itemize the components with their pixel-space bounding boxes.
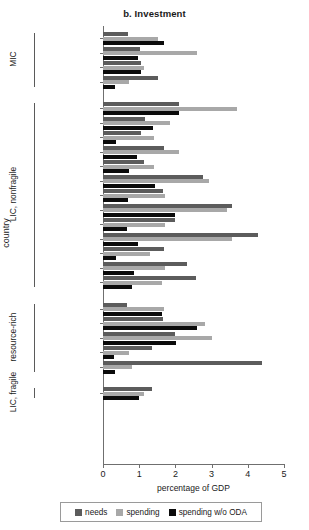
bar-needs: [103, 204, 232, 208]
bar-needs: [103, 247, 164, 251]
category-tick: [100, 367, 103, 368]
bar-spending: [103, 281, 162, 285]
x-tick: [139, 464, 140, 468]
x-tick: [175, 464, 176, 468]
category-tick: [100, 309, 103, 310]
chart-title: b. Investment: [0, 8, 309, 19]
bar-spending: [103, 266, 165, 270]
bar-needs: [103, 189, 163, 193]
category-tick: [100, 38, 103, 39]
bar-group-row: [103, 102, 284, 117]
bar-spending: [103, 179, 209, 183]
bar-needs: [103, 317, 163, 321]
bar-spending: [103, 237, 232, 241]
x-tick: [248, 464, 249, 468]
bar-noda: [103, 41, 164, 45]
category-tick: [100, 181, 103, 182]
x-tick: [284, 464, 285, 468]
legend-label-needs: needs: [85, 508, 107, 517]
bar-noda: [103, 213, 175, 217]
bar-spending: [103, 208, 227, 212]
bar-noda: [103, 184, 155, 188]
group-bracket-line: [34, 103, 35, 287]
bar-spending: [103, 80, 129, 84]
bar-spending: [103, 336, 212, 340]
bar-group-row: [103, 218, 284, 233]
bar-group-row: [103, 32, 284, 47]
bar-noda: [103, 312, 162, 316]
bar-noda: [103, 70, 141, 74]
bar-noda: [103, 56, 138, 60]
group-bracket-line: [34, 33, 35, 87]
bar-needs: [103, 387, 152, 391]
bar-group-row: [103, 317, 284, 332]
plot-area: [103, 26, 284, 464]
category-tick: [100, 67, 103, 68]
bar-noda: [103, 126, 153, 130]
bar-needs: [103, 218, 175, 222]
bar-group-row: [103, 189, 284, 204]
category-tick: [100, 323, 103, 324]
x-tick: [103, 464, 104, 468]
bar-needs: [103, 117, 145, 121]
bar-group-row: [103, 47, 284, 62]
chart-root: b. Investment 012345 percentage of GDP c…: [0, 0, 309, 530]
category-tick: [100, 123, 103, 124]
category-tick: [100, 338, 103, 339]
group-label: MIC: [8, 16, 18, 102]
category-tick: [100, 152, 103, 153]
bar-group-row: [103, 346, 284, 361]
bar-needs: [103, 175, 203, 179]
bar-group-row: [103, 361, 284, 376]
bar-spending: [103, 365, 132, 369]
bar-noda: [103, 85, 115, 89]
bar-needs: [103, 61, 141, 65]
bar-group-row: [103, 303, 284, 318]
bar-group-row: [103, 262, 284, 277]
legend-swatch-spending-wo-oda-icon: [169, 509, 176, 516]
bar-needs: [103, 146, 164, 150]
bar-noda: [103, 169, 129, 173]
bar-group-row: [103, 160, 284, 175]
bar-spending: [103, 252, 150, 256]
bar-noda: [103, 271, 134, 275]
bar-group-row: [103, 175, 284, 190]
bar-group-row: [103, 233, 284, 248]
category-tick: [100, 224, 103, 225]
bar-noda: [103, 140, 116, 144]
bar-noda: [103, 341, 176, 345]
bar-group-row: [103, 61, 284, 76]
chart-legend: needs spending spending w/o ODA: [60, 502, 262, 522]
bar-noda: [103, 355, 114, 359]
bar-needs: [103, 303, 127, 307]
category-tick: [100, 166, 103, 167]
legend-swatch-needs-icon: [75, 509, 82, 516]
bar-spending: [103, 37, 158, 41]
legend-item-needs: needs: [75, 508, 107, 517]
bar-group-row: [103, 204, 284, 219]
bar-spending: [103, 351, 129, 355]
bar-spending: [103, 307, 164, 311]
group-bracket-line: [34, 304, 35, 372]
category-tick: [100, 137, 103, 138]
bar-spending: [103, 194, 165, 198]
bar-needs: [103, 47, 140, 51]
x-tick-label: 1: [129, 469, 149, 479]
bar-noda: [103, 242, 138, 246]
bar-needs: [103, 346, 152, 350]
bar-spending: [103, 66, 144, 70]
category-tick: [100, 239, 103, 240]
x-axis-title: percentage of GDP: [103, 483, 284, 493]
bar-group-row: [103, 247, 284, 262]
category-tick: [100, 393, 103, 394]
x-tick-label: 2: [165, 469, 185, 479]
bar-spending: [103, 150, 179, 154]
bar-needs: [103, 262, 187, 266]
legend-item-spending-wo-oda: spending w/o ODA: [169, 508, 247, 517]
legend-swatch-spending-icon: [116, 509, 123, 516]
bar-noda: [103, 370, 115, 374]
x-tick: [212, 464, 213, 468]
bar-group-row: [103, 276, 284, 291]
bar-noda: [103, 111, 179, 115]
bar-needs: [103, 160, 144, 164]
